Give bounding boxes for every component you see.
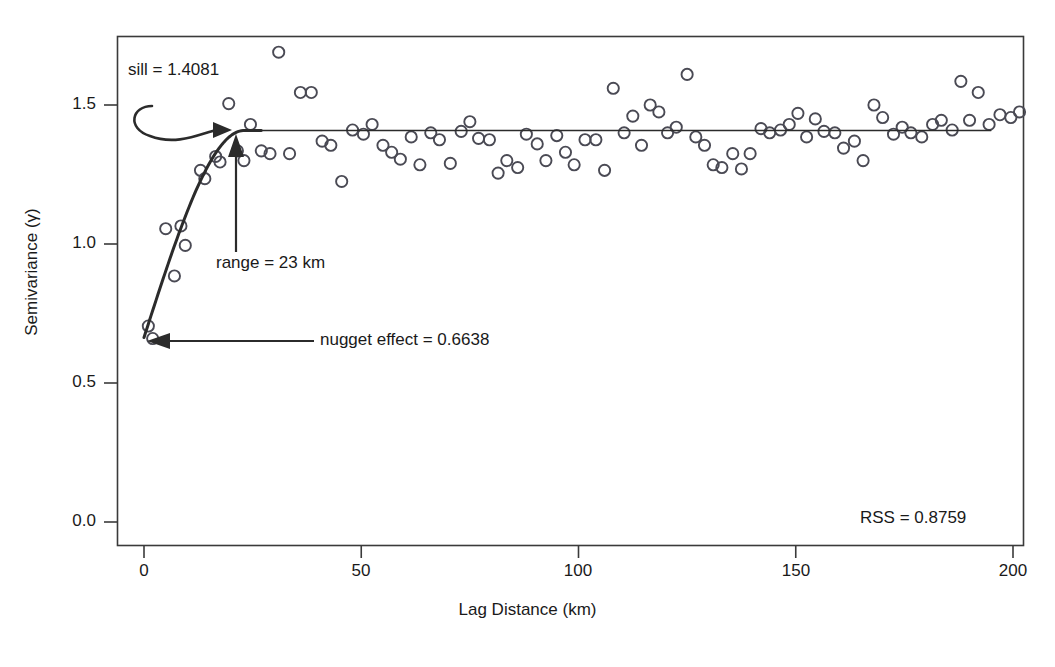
y-tick-label-1-5: 1.5 — [50, 94, 96, 114]
rss-label: RSS = 0.8759 — [860, 508, 966, 528]
data-point — [551, 130, 562, 141]
data-point — [406, 131, 417, 142]
data-point — [955, 76, 966, 87]
nugget-arrow — [147, 333, 314, 349]
data-point — [284, 148, 295, 159]
y-axis-ticks — [104, 105, 117, 522]
model-curve — [144, 131, 261, 338]
x-tick-label-200: 200 — [983, 561, 1043, 581]
data-point — [745, 148, 756, 159]
data-point — [590, 134, 601, 145]
data-point — [512, 162, 523, 173]
data-point — [849, 136, 860, 147]
x-axis-ticks — [144, 546, 1013, 558]
nugget-annotation-label: nugget effect = 0.6638 — [320, 330, 489, 350]
data-point — [579, 134, 590, 145]
data-point — [784, 119, 795, 130]
range-arrow — [228, 134, 244, 252]
data-point — [636, 140, 647, 151]
data-point — [180, 240, 191, 251]
data-point — [395, 154, 406, 165]
data-point — [905, 127, 916, 138]
data-point — [160, 223, 171, 234]
data-point — [456, 126, 467, 137]
data-point — [560, 147, 571, 158]
data-point — [501, 155, 512, 166]
y-tick-label-0-5: 0.5 — [50, 372, 96, 392]
data-point — [599, 165, 610, 176]
data-point — [473, 133, 484, 144]
data-point — [445, 158, 456, 169]
data-point — [532, 138, 543, 149]
data-point — [414, 159, 425, 170]
y-tick-label-0-0: 0.0 — [50, 511, 96, 531]
data-point — [916, 131, 927, 142]
data-point — [306, 87, 317, 98]
data-point — [245, 119, 256, 130]
data-point — [964, 115, 975, 126]
x-tick-label-0: 0 — [114, 561, 174, 581]
data-point — [367, 119, 378, 130]
data-point — [223, 98, 234, 109]
plot-frame — [118, 37, 1024, 546]
data-point — [464, 116, 475, 127]
data-point — [727, 148, 738, 159]
data-point — [801, 131, 812, 142]
data-point — [295, 87, 306, 98]
data-point — [792, 108, 803, 119]
x-axis-title: Lag Distance (km) — [0, 600, 1055, 620]
y-axis-title: Semivariance (γ) — [22, 172, 42, 372]
x-tick-label-50: 50 — [331, 561, 391, 581]
data-point — [484, 134, 495, 145]
data-point — [169, 270, 180, 281]
x-tick-label-150: 150 — [766, 561, 826, 581]
data-point — [682, 69, 693, 80]
data-point — [336, 176, 347, 187]
sill-annotation-label: sill = 1.4081 — [128, 60, 219, 80]
data-point — [994, 109, 1005, 120]
data-point — [569, 159, 580, 170]
x-tick-label-100: 100 — [548, 561, 608, 581]
data-point — [699, 140, 710, 151]
data-point — [838, 142, 849, 153]
data-point — [619, 127, 630, 138]
data-points — [143, 47, 1025, 345]
data-point — [608, 83, 619, 94]
data-point — [540, 155, 551, 166]
data-point — [493, 168, 504, 179]
semivariogram-figure: Semivariance (γ) Lag Distance (km) 1.5 1… — [0, 0, 1055, 667]
data-point — [810, 113, 821, 124]
sill-arrow — [134, 106, 232, 140]
data-point — [868, 99, 879, 110]
data-point — [736, 163, 747, 174]
data-point — [973, 87, 984, 98]
data-point — [653, 106, 664, 117]
y-tick-label-1-0: 1.0 — [50, 233, 96, 253]
data-point — [877, 112, 888, 123]
data-point — [818, 126, 829, 137]
data-point — [984, 119, 995, 130]
data-point — [273, 47, 284, 58]
range-annotation-label: range = 23 km — [216, 253, 325, 273]
data-point — [857, 155, 868, 166]
data-point — [627, 111, 638, 122]
data-point — [434, 134, 445, 145]
data-point — [829, 127, 840, 138]
